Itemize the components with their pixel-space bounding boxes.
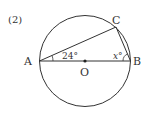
label-a: A bbox=[23, 55, 33, 68]
problem-number: (2) bbox=[8, 14, 22, 25]
angle-label-abc: x° bbox=[113, 51, 123, 61]
geometry-diagram: (2) A B C O 24° x° bbox=[0, 0, 147, 122]
label-c: C bbox=[112, 14, 120, 27]
label-b: B bbox=[133, 55, 141, 68]
angle-arc-b bbox=[123, 54, 128, 61]
label-o: O bbox=[80, 66, 89, 79]
angle-arc-a bbox=[52, 56, 53, 62]
angle-label-cab: 24° bbox=[62, 51, 78, 61]
center-point-o bbox=[83, 59, 86, 62]
